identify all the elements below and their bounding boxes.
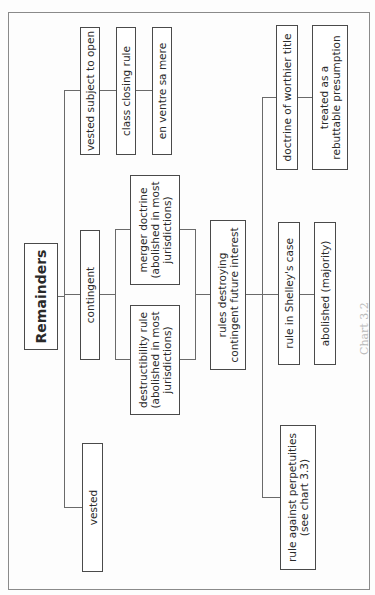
chart-caption: Chart 3.2 xyxy=(358,302,371,355)
node-rule-against-perpetuities: rule against perpetuities (see chart 3.3… xyxy=(280,425,316,570)
connector xyxy=(64,90,80,91)
node-label: rule against perpetuities xyxy=(286,433,298,562)
diagram-canvas: Remainders vested contingent vested subj… xyxy=(0,0,375,595)
connector xyxy=(262,294,278,295)
node-rules-destroying: rules destroying contingent future inter… xyxy=(210,220,246,370)
node-vested: vested xyxy=(82,443,103,572)
connector xyxy=(100,294,115,295)
connector xyxy=(115,229,116,360)
connector xyxy=(180,359,195,360)
connector xyxy=(64,507,82,508)
node-contingent: contingent xyxy=(80,230,100,360)
connector xyxy=(115,229,130,230)
connector xyxy=(115,359,130,360)
node-label: (abolished in most xyxy=(149,181,161,278)
connector xyxy=(64,90,65,508)
connector xyxy=(262,497,280,498)
node-label: vested subject to open xyxy=(84,31,96,151)
node-label: jurisdictions) xyxy=(161,196,173,263)
node-label: rule in Shelley's case xyxy=(283,238,295,349)
node-rule-in-shelleys-case: rule in Shelley's case xyxy=(278,222,300,365)
node-class-closing-rule: class closing rule xyxy=(116,27,136,155)
node-en-ventre-sa-mere: en ventre sa mere xyxy=(152,27,172,155)
node-label: merger doctrine xyxy=(137,188,149,273)
connector xyxy=(246,294,262,295)
connector xyxy=(298,97,312,98)
node-label: class closing rule xyxy=(120,46,132,136)
node-treated-as-rebuttable: treated as a rebuttable presumption xyxy=(312,25,348,170)
node-label: rebuttable presumption xyxy=(330,35,342,159)
connector xyxy=(64,294,80,295)
node-remainders: Remainders xyxy=(24,243,58,350)
node-label: contingent xyxy=(84,267,96,323)
node-label: destructibility rule xyxy=(137,312,149,408)
node-label: (see chart 3.3) xyxy=(298,459,310,536)
node-label: (abolished in most xyxy=(149,311,161,408)
connector xyxy=(262,97,263,498)
node-label: jurisdictions) xyxy=(161,326,173,393)
node-label: doctrine of worthier title xyxy=(281,34,293,162)
connector xyxy=(300,294,314,295)
node-label: abolished (majority) xyxy=(319,241,331,347)
connector xyxy=(180,229,195,230)
node-label: treated as a xyxy=(318,66,330,129)
node-label: rules destroying xyxy=(216,253,228,338)
node-abolished-majority: abolished (majority) xyxy=(314,222,336,365)
node-doctrine-of-worthier-title: doctrine of worthier title xyxy=(276,25,298,170)
node-merger-doctrine: merger doctrine (abolished in most juris… xyxy=(130,175,180,285)
node-vested-subject-to-open: vested subject to open xyxy=(80,27,100,155)
connector xyxy=(136,90,152,91)
connector xyxy=(262,97,276,98)
node-destructibility-rule: destructibility rule (abolished in most … xyxy=(130,305,180,415)
node-label: vested xyxy=(87,490,99,525)
connector xyxy=(195,294,210,295)
connector xyxy=(100,90,116,91)
node-label: en ventre sa mere xyxy=(156,43,168,139)
node-label: contingent future interest xyxy=(228,227,240,362)
node-label: Remainders xyxy=(35,250,47,344)
